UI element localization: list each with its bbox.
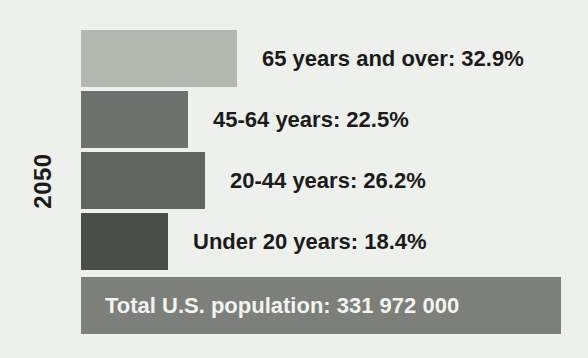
bar-45-64-years	[81, 91, 188, 148]
bar-20-44-years	[81, 152, 205, 209]
bar-under-20-years	[81, 213, 168, 270]
bar-label-20-44-years: 20-44 years: 26.2%	[230, 168, 426, 194]
year-axis-label: 2050	[29, 153, 57, 208]
population-projection-chart: 2050 65 years and over: 32.9% 45-64 year…	[0, 0, 588, 358]
bar-65-years-and-over	[81, 30, 237, 87]
bar-label-65-years-and-over: 65 years and over: 32.9%	[262, 46, 524, 72]
bar-label-under-20-years: Under 20 years: 18.4%	[193, 229, 427, 255]
total-population-label: Total U.S. population: 331 972 000	[81, 293, 459, 319]
bar-row: 65 years and over: 32.9%	[81, 30, 524, 87]
bars-area: 65 years and over: 32.9% 45-64 years: 22…	[81, 30, 524, 274]
bar-row: Under 20 years: 18.4%	[81, 213, 524, 270]
bar-row: 45-64 years: 22.5%	[81, 91, 524, 148]
bar-row: 20-44 years: 26.2%	[81, 152, 524, 209]
bar-label-45-64-years: 45-64 years: 22.5%	[213, 107, 409, 133]
total-population-bar: Total U.S. population: 331 972 000	[81, 277, 561, 334]
